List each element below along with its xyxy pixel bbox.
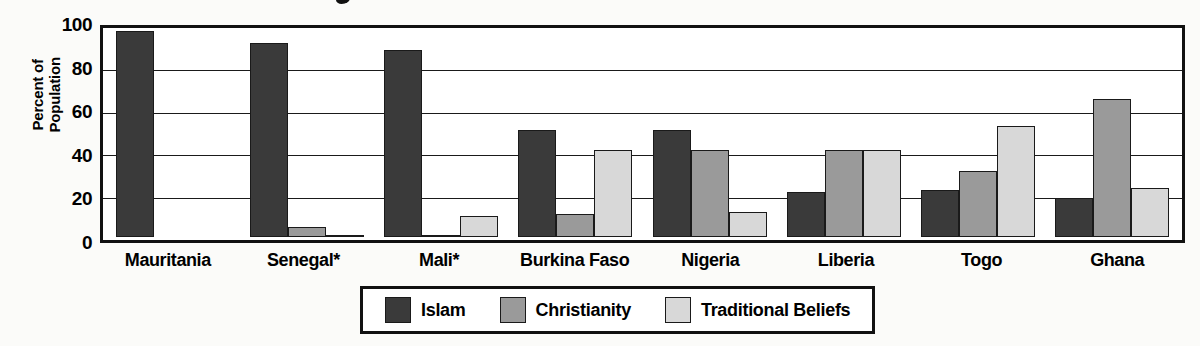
bar-islam[interactable] bbox=[116, 31, 154, 237]
bar-christianity[interactable] bbox=[556, 214, 594, 237]
cropped-title-artifact bbox=[336, 0, 350, 4]
bar-traditional[interactable] bbox=[863, 150, 901, 237]
x-tick-label: Senegal* bbox=[236, 250, 372, 278]
bar-islam[interactable] bbox=[1055, 198, 1093, 237]
bar-islam[interactable] bbox=[921, 190, 959, 237]
legend-label-islam: Islam bbox=[421, 300, 466, 321]
y-tick-label: 60 bbox=[72, 101, 92, 123]
x-tick-label: Mali* bbox=[371, 250, 507, 278]
bar-group bbox=[240, 31, 374, 237]
bar-islam[interactable] bbox=[518, 130, 556, 237]
legend-swatch-islam bbox=[385, 297, 411, 323]
y-tick-label: 40 bbox=[72, 145, 92, 167]
bar-islam[interactable] bbox=[384, 50, 422, 237]
chart-legend: IslamChristianityTraditional Beliefs bbox=[360, 286, 875, 334]
legend-item-traditional[interactable]: Traditional Beliefs bbox=[665, 297, 850, 323]
bar-group bbox=[374, 31, 508, 237]
bar-christianity[interactable] bbox=[691, 150, 729, 237]
y-tick-label: 0 bbox=[82, 232, 92, 254]
x-axis-tick-labels: MauritaniaSenegal*Mali*Burkina FasoNiger… bbox=[100, 250, 1185, 278]
legend-label-traditional: Traditional Beliefs bbox=[701, 300, 850, 321]
chart-page: Percent of Population 100806040200 Mauri… bbox=[0, 0, 1200, 346]
y-tick-label: 20 bbox=[72, 188, 92, 210]
bar-traditional[interactable] bbox=[326, 235, 364, 237]
bar-islam[interactable] bbox=[250, 43, 288, 237]
bar-traditional[interactable] bbox=[729, 212, 767, 237]
bar-christianity[interactable] bbox=[959, 171, 997, 237]
bar-christianity[interactable] bbox=[288, 227, 326, 237]
bar-traditional[interactable] bbox=[1131, 188, 1169, 237]
bar-group bbox=[643, 31, 777, 237]
x-tick-label: Burkina Faso bbox=[507, 250, 643, 278]
bar-group bbox=[508, 31, 642, 237]
bar-traditional[interactable] bbox=[997, 126, 1035, 237]
bar-group bbox=[777, 31, 911, 237]
bar-christianity[interactable] bbox=[825, 150, 863, 237]
legend-label-christianity: Christianity bbox=[536, 300, 631, 321]
legend-item-christianity[interactable]: Christianity bbox=[500, 297, 631, 323]
plot-area bbox=[100, 25, 1185, 243]
bar-christianity[interactable] bbox=[422, 235, 460, 237]
bar-christianity[interactable] bbox=[1093, 99, 1131, 237]
bar-islam[interactable] bbox=[653, 130, 691, 237]
legend-swatch-christianity bbox=[500, 297, 526, 323]
bar-islam[interactable] bbox=[787, 192, 825, 237]
bar-group bbox=[1045, 31, 1179, 237]
x-tick-label: Mauritania bbox=[100, 250, 236, 278]
x-tick-label: Nigeria bbox=[643, 250, 779, 278]
bar-group bbox=[911, 31, 1045, 237]
legend-item-islam[interactable]: Islam bbox=[385, 297, 466, 323]
legend-swatch-traditional bbox=[665, 297, 691, 323]
x-tick-label: Togo bbox=[914, 250, 1050, 278]
x-tick-label: Liberia bbox=[778, 250, 914, 278]
bar-traditional[interactable] bbox=[460, 216, 498, 237]
bar-groups bbox=[106, 31, 1179, 237]
x-tick-label: Ghana bbox=[1049, 250, 1185, 278]
y-axis-tick-labels: 100806040200 bbox=[34, 25, 92, 243]
bar-group bbox=[106, 31, 240, 237]
bar-traditional[interactable] bbox=[594, 150, 632, 237]
y-tick-label: 100 bbox=[62, 14, 92, 36]
y-tick-label: 80 bbox=[72, 58, 92, 80]
